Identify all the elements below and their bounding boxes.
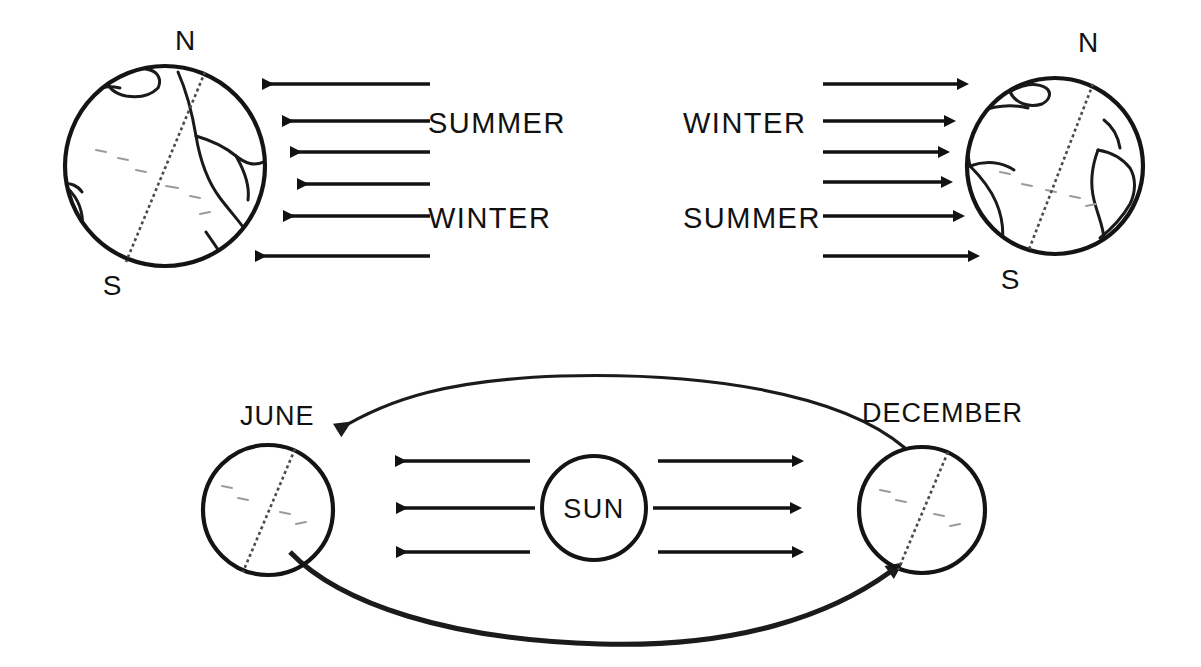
june-faint-2 (238, 498, 248, 500)
globe-june (203, 445, 333, 575)
label-winter-left-panel: WINTER (428, 202, 551, 234)
faint-island-3 (136, 170, 146, 172)
sunlight-rays-left-panel (255, 84, 430, 256)
sunlight-rays-right-panel (823, 84, 968, 256)
coastline-sa-north (970, 163, 1014, 170)
dec-faint-2 (896, 500, 906, 502)
coastline-eurasia-africa-spine (178, 72, 252, 240)
sun-rays-toward-june (395, 461, 535, 552)
june-faint-1 (222, 486, 232, 488)
coastline-africa-right (1098, 150, 1135, 238)
faint-island-r2 (1022, 184, 1032, 186)
seasons-diagram: N S SUMMER WINTER (0, 0, 1201, 667)
label-summer-right-panel: SUMMER (683, 202, 821, 234)
december-globe-circle (859, 447, 985, 573)
december-axis-line (898, 452, 948, 570)
faint-island-5 (190, 196, 200, 198)
diagram-canvas: N S SUMMER WINTER (0, 0, 1201, 667)
faint-island-2 (118, 158, 128, 160)
earth-axis-line (126, 72, 205, 262)
faint-island-r4 (1070, 196, 1080, 198)
earth-axis-line-right (1028, 84, 1093, 252)
dec-faint-3 (934, 514, 944, 516)
coastline-africa-west-right (1092, 150, 1104, 240)
globe-top-left: N S (60, 25, 265, 301)
south-pole-label: S (103, 270, 122, 301)
june-faint-3 (280, 512, 290, 514)
panel-top-left: N S SUMMER WINTER (60, 25, 566, 301)
label-winter-right-panel: WINTER (683, 107, 806, 139)
label-summer-left-panel: SUMMER (428, 107, 566, 139)
june-faint-4 (296, 522, 306, 524)
north-pole-label: N (175, 25, 195, 56)
faint-island-r1 (1000, 172, 1010, 174)
orbit-arc-top (338, 376, 905, 448)
coastline-africa-horn (196, 136, 264, 164)
orbit-arc-bottom (290, 552, 890, 644)
globe-top-right: N S (967, 27, 1143, 295)
dec-faint-4 (950, 524, 960, 526)
sun-label: SUN (563, 494, 625, 524)
sun: SUN (542, 456, 646, 560)
dec-faint-1 (880, 490, 890, 492)
panel-top-right: N S WINTER SUMMER (683, 27, 1143, 295)
north-pole-label-right: N (1078, 27, 1098, 58)
globe-landmasses-right (968, 85, 1135, 244)
globe-outline-circle-right (967, 78, 1143, 254)
faint-island-4 (166, 186, 178, 188)
faint-island-6 (200, 212, 210, 214)
panel-bottom-orbit: JUNE DECEMBER SUN (203, 376, 1023, 645)
coastline-southern-limb (206, 232, 228, 266)
label-december: DECEMBER (862, 398, 1023, 428)
label-june: JUNE (240, 401, 315, 431)
sun-rays-toward-december (653, 461, 792, 552)
coastline-europe-right (1104, 120, 1120, 148)
globe-december (859, 447, 985, 573)
june-axis-line (243, 449, 295, 572)
south-pole-label-right: S (1001, 264, 1020, 295)
faint-island-1 (96, 150, 106, 152)
june-globe-interior (222, 486, 306, 524)
